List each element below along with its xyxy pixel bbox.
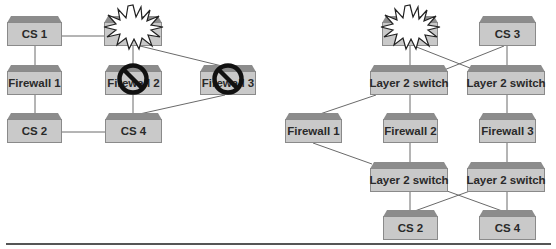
node-label: Layer 2 switch — [370, 168, 448, 192]
node-label: Firewall 1 — [285, 119, 342, 143]
node-layer2-switch-a: Layer 2 switch — [370, 65, 448, 95]
node-label — [104, 22, 162, 46]
node-firewall-1: Firewall 1 — [7, 65, 62, 95]
node-cs1: CS 1 — [7, 16, 62, 46]
node-label: Layer 2 switch — [370, 71, 448, 95]
node-firewall-3: Firewall 3 — [479, 113, 536, 143]
node-layer2-switch-c: Layer 2 switch — [370, 162, 448, 192]
node-label: Firewall 2 — [105, 71, 162, 95]
node-cs2: CS 2 — [7, 113, 62, 143]
node-label: CS 1 — [7, 22, 62, 46]
node-label: Firewall 3 — [479, 119, 536, 143]
node-cs4: CS 4 — [105, 113, 162, 143]
network-failover-diagram: CS 1 Firewall 1 Firewall 2 Firewall 3 CS… — [0, 0, 556, 249]
node-label: Layer 2 switch — [467, 168, 545, 192]
node-layer2-switch-b: Layer 2 switch — [467, 65, 545, 95]
node-firewall-1: Firewall 1 — [285, 113, 342, 143]
node-label — [382, 22, 438, 46]
horizontal-rule — [6, 243, 551, 245]
node-label: CS 4 — [479, 216, 536, 240]
node-cs3: CS 3 — [479, 16, 536, 46]
node-layer2-switch-d: Layer 2 switch — [467, 162, 545, 192]
node-label: Firewall 1 — [7, 71, 62, 95]
node-label: CS 4 — [105, 119, 162, 143]
node-label: Firewall 2 — [383, 119, 438, 143]
node-firewall-2-blocked: Firewall 2 — [105, 65, 162, 95]
node-label: Layer 2 switch — [467, 71, 545, 95]
node-label: Firewall 3 — [200, 71, 256, 95]
node-label: CS 3 — [479, 22, 536, 46]
node-cs2: CS 2 — [383, 210, 438, 240]
node-cs4: CS 4 — [479, 210, 536, 240]
node-failed-left — [104, 16, 162, 46]
connection-lines — [0, 0, 556, 249]
node-firewall-2: Firewall 2 — [383, 113, 438, 143]
node-label: CS 2 — [383, 216, 438, 240]
node-label: CS 2 — [7, 119, 62, 143]
node-firewall-3-blocked: Firewall 3 — [200, 65, 256, 95]
node-failed-right — [382, 16, 438, 46]
